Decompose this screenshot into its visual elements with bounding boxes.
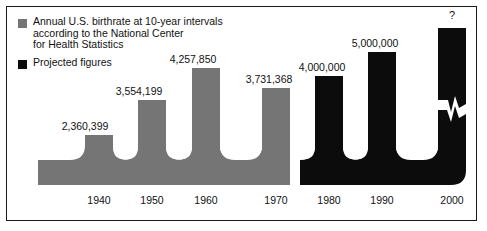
x-tick-1990: 1990: [362, 194, 402, 206]
notch-1950-1960: [166, 100, 192, 160]
bar-value-label-1940: 2,360,399: [38, 120, 132, 132]
x-tick-1960: 1960: [186, 194, 226, 206]
legend-swatch-projected: [18, 60, 27, 69]
x-tick-2000: 2000: [432, 194, 472, 206]
notch-1940-1950: [113, 135, 138, 160]
notch-1980-1990: [343, 76, 368, 160]
legend-item-actual: Annual U.S. birthrate at 10-year interva…: [18, 16, 223, 51]
bar-value-label-1980: 4,000,000: [275, 61, 369, 73]
x-tick-1970: 1970: [256, 194, 296, 206]
bar-value-label-1970: 3,731,368: [222, 73, 316, 85]
bar-value-label-2000: ?: [442, 9, 462, 21]
bar-value-label-1950: 3,554,199: [92, 85, 186, 97]
bar-value-label-1960: 4,257,850: [146, 53, 240, 65]
bar-value-label-1990: 5,000,000: [328, 37, 422, 49]
chart-figure: Annual U.S. birthrate at 10-year interva…: [0, 0, 487, 231]
notch-1970-1980: [290, 88, 315, 160]
x-tick-1950: 1950: [132, 194, 172, 206]
x-tick-1940: 1940: [79, 194, 119, 206]
legend-swatch-actual: [18, 19, 27, 28]
legend: Annual U.S. birthrate at 10-year interva…: [18, 16, 223, 75]
x-tick-1980: 1980: [309, 194, 349, 206]
legend-label-projected: Projected figures: [33, 57, 112, 69]
legend-label-actual: Annual U.S. birthrate at 10-year interva…: [33, 16, 223, 51]
notch-1990-2000: [396, 52, 438, 160]
